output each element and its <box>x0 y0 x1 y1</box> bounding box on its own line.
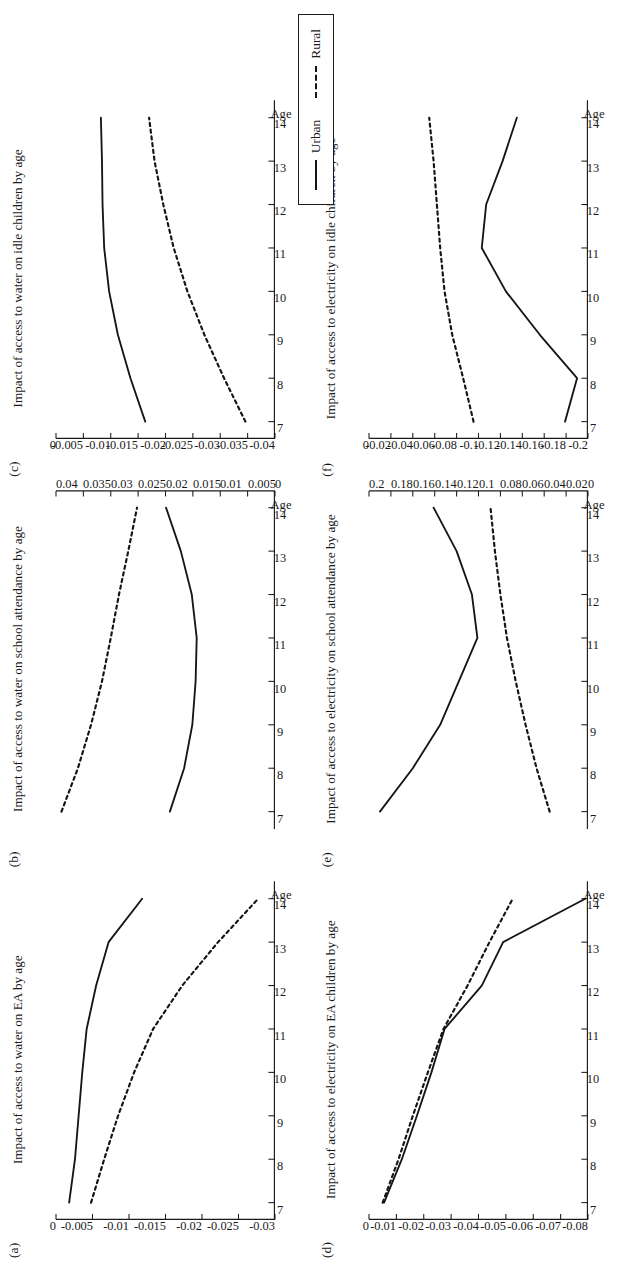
value-tick-label-d-2: -0.02 <box>398 1219 424 1234</box>
value-tick-label-e-6: 0.08 <box>500 477 522 492</box>
panel-a: (a)Impact of access to water on EA by ag… <box>4 873 315 1260</box>
series-rural-a <box>91 899 258 1203</box>
age-tick-label-a-4: 11 <box>274 1029 286 1044</box>
value-tick-label-a-5: -0.025 <box>206 1219 238 1234</box>
panel-b: (b)Impact of access to water on school a… <box>4 483 315 870</box>
age-tick-label-c-5: 12 <box>274 204 286 219</box>
plot-area-b: 0.040.0350.030.0250.020.0150.010.0050789… <box>56 491 275 830</box>
series-rural-b <box>61 508 137 812</box>
age-tick-label-c-6: 13 <box>274 161 286 176</box>
value-tick-label-d-3: -0.03 <box>425 1219 451 1234</box>
age-tick-label-c-3: 10 <box>274 291 286 306</box>
age-tick-label-b-4: 11 <box>274 638 286 653</box>
age-tick-label-e-6: 13 <box>587 551 599 566</box>
panel-title-d: Impact of access to electricity on EA ch… <box>323 873 339 1260</box>
plot-area-e: 0.20.180.160.140.120.10.080.060.040.0207… <box>369 491 588 830</box>
panel-f: (f)Impact of access to electricity on id… <box>317 92 628 479</box>
series-urban-f <box>482 117 577 421</box>
value-tick-label-d-8: -0.08 <box>562 1219 588 1234</box>
value-tick-label-a-1: -0.005 <box>60 1219 92 1234</box>
panel-title-b: Impact of access to water on school atte… <box>10 483 26 870</box>
legend-item-rural: Rural <box>308 29 324 98</box>
plot-area-c: 0-0.005-0.01-0.015-0.02-0.025-0.03-0.035… <box>56 100 275 439</box>
value-tick-label-f-4: -0.08 <box>431 437 457 452</box>
age-tick-label-f-3: 10 <box>587 291 599 306</box>
age-tick-label-f-5: 12 <box>587 204 599 219</box>
series-rural-f <box>429 117 473 421</box>
age-axis-name-b: Age <box>271 498 292 513</box>
value-tick-label-c-1: -0.005 <box>51 437 83 452</box>
age-tick-label-a-5: 12 <box>274 985 286 1000</box>
value-tick-label-b-8: 0 <box>275 477 281 492</box>
value-tick-label-a-3: -0.015 <box>133 1219 165 1234</box>
age-tick-label-b-1: 8 <box>277 769 283 784</box>
value-tick-label-c-5: -0.025 <box>161 437 193 452</box>
age-axis-name-d: Age <box>584 888 605 903</box>
value-tick-label-f-10: -0.2 <box>568 437 588 452</box>
age-tick-label-e-1: 8 <box>590 769 596 784</box>
value-tick-label-e-9: 0.02 <box>566 477 588 492</box>
value-tick-label-d-0: 0 <box>363 1219 369 1234</box>
age-tick-label-c-0: 7 <box>277 421 283 436</box>
value-tick-label-a-2: -0.01 <box>103 1219 129 1234</box>
value-tick-label-e-7: 0.06 <box>522 477 544 492</box>
value-tick-label-a-0: 0 <box>50 1219 56 1234</box>
value-tick-label-e-8: 0.04 <box>544 477 566 492</box>
age-tick-label-c-1: 8 <box>277 378 283 393</box>
value-tick-label-b-4: 0.02 <box>166 477 188 492</box>
legend-swatch-urban-solid-line-icon <box>315 160 317 190</box>
age-axis-name-e: Age <box>584 498 605 513</box>
value-tick-label-e-1: 0.18 <box>391 477 413 492</box>
value-tick-label-c-7: -0.035 <box>216 437 248 452</box>
age-tick-label-b-3: 10 <box>274 682 286 697</box>
age-tick-label-f-1: 8 <box>590 378 596 393</box>
series-urban-b <box>166 508 197 812</box>
series-urban-e <box>380 508 477 812</box>
value-tick-label-e-2: 0.16 <box>413 477 435 492</box>
age-tick-label-e-5: 12 <box>587 595 599 610</box>
age-tick-label-d-5: 12 <box>587 985 599 1000</box>
age-tick-label-e-3: 10 <box>587 682 599 697</box>
series-urban-c <box>101 117 145 421</box>
age-tick-label-d-3: 10 <box>587 1072 599 1087</box>
series-urban-d <box>384 899 585 1203</box>
value-tick-label-b-7: 0.005 <box>248 477 276 492</box>
value-tick-label-e-3: 0.14 <box>435 477 457 492</box>
panel-title-a: Impact of access to water on EA by age <box>10 873 26 1260</box>
value-tick-label-c-8: -0.04 <box>249 437 275 452</box>
age-tick-label-b-6: 13 <box>274 551 286 566</box>
age-tick-label-b-0: 7 <box>277 812 283 827</box>
value-tick-label-d-5: -0.05 <box>480 1219 506 1234</box>
age-tick-label-b-2: 9 <box>277 725 283 740</box>
value-tick-label-b-2: 0.03 <box>111 477 133 492</box>
age-tick-label-c-2: 9 <box>277 334 283 349</box>
panel-title-c: Impact of access to water on idle childr… <box>10 92 26 479</box>
age-axis-name-f: Age <box>584 107 605 122</box>
plot-svg-e <box>369 491 588 830</box>
age-tick-label-d-1: 8 <box>590 1159 596 1174</box>
panel-title-e: Impact of access to electricity on schoo… <box>323 483 339 870</box>
value-tick-label-e-10: 0 <box>588 477 594 492</box>
age-tick-label-d-0: 7 <box>590 1203 596 1218</box>
age-axis-name-c: Age <box>271 107 292 122</box>
age-tick-label-a-1: 8 <box>277 1159 283 1174</box>
value-tick-label-a-6: -0.03 <box>249 1219 275 1234</box>
value-tick-label-d-1: -0.01 <box>371 1219 397 1234</box>
legend: Urban Rural <box>298 14 334 205</box>
age-tick-label-e-0: 7 <box>590 812 596 827</box>
age-tick-label-f-0: 7 <box>590 421 596 436</box>
age-tick-label-d-2: 9 <box>590 1116 596 1131</box>
value-tick-label-b-0: 0.04 <box>56 477 78 492</box>
figure-stage: (a)Impact of access to water on EA by ag… <box>0 0 632 1266</box>
value-tick-label-e-0: 0.2 <box>369 477 385 492</box>
value-tick-label-b-6: 0.01 <box>220 477 242 492</box>
value-tick-label-b-1: 0.035 <box>83 477 111 492</box>
age-tick-label-c-4: 11 <box>274 247 286 262</box>
panel-d: (d)Impact of access to electricity on EA… <box>317 873 628 1260</box>
plot-svg-a <box>56 881 275 1220</box>
plot-svg-c <box>56 100 275 439</box>
age-tick-label-a-2: 9 <box>277 1116 283 1131</box>
plot-svg-b <box>56 491 275 830</box>
age-tick-label-e-2: 9 <box>590 725 596 740</box>
plot-area-d: 0-0.01-0.02-0.03-0.04-0.05-0.06-0.07-0.0… <box>369 881 588 1220</box>
